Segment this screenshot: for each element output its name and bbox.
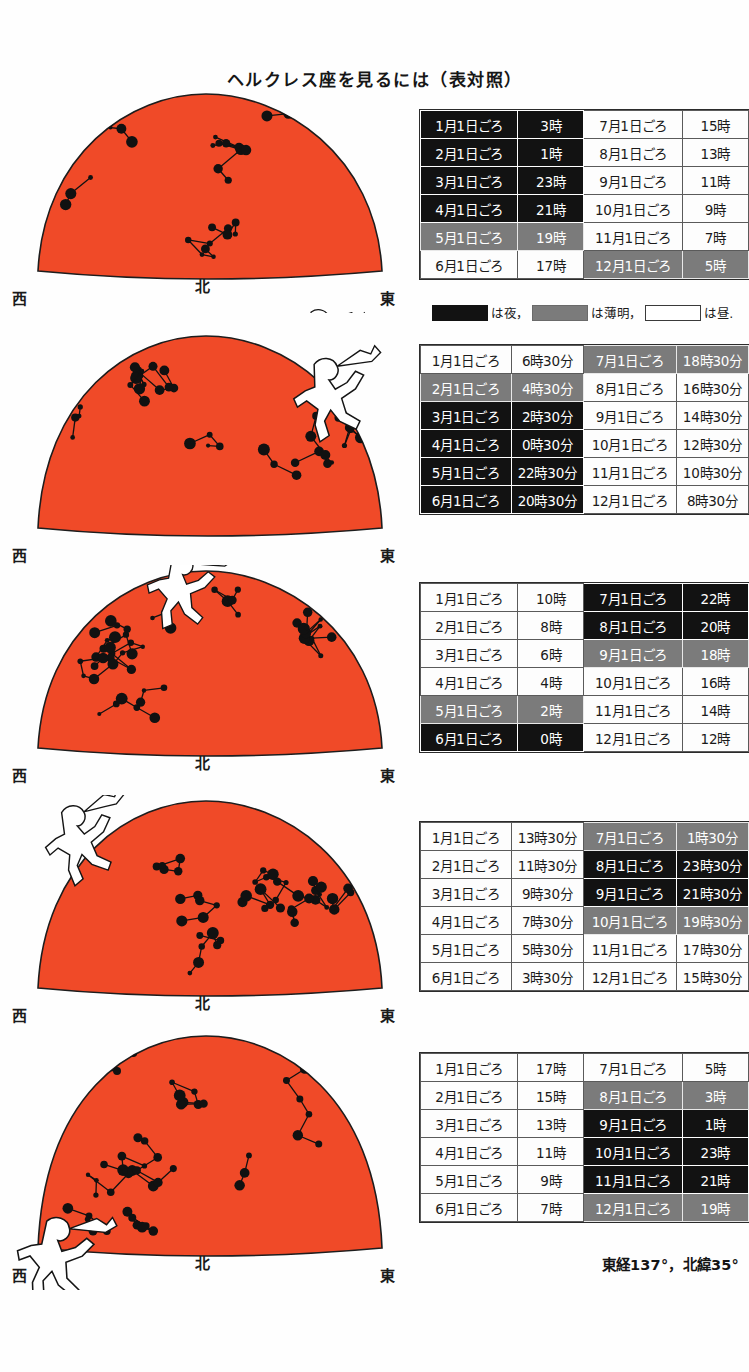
star-dot	[246, 1153, 252, 1159]
star-dot	[303, 608, 312, 617]
star-dot	[306, 1111, 313, 1118]
star-dot	[327, 893, 338, 904]
cell-left-date: 3月1日ごろ	[421, 167, 518, 195]
cell-left-date: 2月1日ごろ	[421, 374, 512, 402]
legend-day-label: は昼.	[704, 303, 733, 322]
star-dot	[288, 905, 295, 912]
star-dot	[270, 461, 277, 468]
direction-label-east: 東	[380, 1004, 395, 1025]
cell-right-time: 17時30分	[676, 935, 748, 963]
star-dot	[255, 883, 267, 895]
star-dot	[107, 659, 118, 670]
sky-panel-5: 西北東	[0, 1030, 412, 1290]
cell-right-date: 9月1日ごろ	[583, 879, 676, 907]
star-dot	[235, 612, 241, 618]
table-row: 3月1日ごろ23時9月1日ごろ11時	[421, 167, 749, 195]
star-dot	[225, 177, 232, 184]
cell-left-time: 19時	[518, 223, 584, 251]
star-dot	[324, 905, 329, 910]
star-dot	[149, 1226, 159, 1236]
star-dot	[98, 653, 108, 663]
legend-day-swatch	[645, 305, 701, 321]
cell-left-date: 6月1日ごろ	[421, 1194, 518, 1222]
star-dot	[136, 698, 145, 707]
direction-label-west: 西	[12, 764, 27, 785]
star-dot	[222, 139, 230, 147]
star-dot	[127, 665, 136, 674]
cell-right-time: 3時	[682, 1082, 748, 1110]
cell-right-time: 21時	[682, 1166, 748, 1194]
constellation-line	[97, 108, 120, 111]
star-dot	[118, 1152, 127, 1161]
cell-left-date: 5月1日ごろ	[421, 458, 512, 486]
direction-label-north: 北	[195, 752, 210, 773]
star-dot	[207, 927, 219, 939]
star-dot	[193, 957, 204, 968]
star-dot	[63, 1203, 74, 1214]
cell-right-time: 19時	[682, 1194, 748, 1222]
sky-panel-4: 西北東	[0, 795, 412, 1030]
star-dot	[292, 470, 302, 480]
cell-left-time: 2時	[518, 696, 584, 724]
star-dot	[199, 1100, 207, 1108]
star-dot	[97, 119, 106, 128]
star-chart-page: ヘルクレス座を見るには（表対照） 西北東 西東 西北東 西北東 西北東 1月1日…	[0, 0, 749, 1372]
star-dot	[187, 971, 192, 976]
star-dot	[77, 414, 82, 419]
star-dot	[94, 1178, 99, 1183]
star-dot	[213, 941, 221, 949]
star-dot	[290, 919, 299, 928]
star-dot	[139, 396, 150, 407]
star-dot	[128, 1214, 136, 1222]
star-dot	[331, 906, 336, 911]
cell-right-date: 10月1日ごろ	[584, 1138, 682, 1166]
direction-label-east: 東	[380, 764, 395, 785]
cell-right-time: 9時	[682, 195, 748, 223]
direction-label-east: 東	[380, 287, 395, 308]
cell-left-time: 17時	[518, 1054, 584, 1082]
star-dot	[223, 230, 233, 240]
cell-left-time: 7時	[518, 1194, 584, 1222]
table-row: 2月1日ごろ4時30分8月1日ごろ16時30分	[421, 374, 749, 402]
cell-left-time: 3時30分	[511, 963, 583, 991]
star-dot	[81, 674, 86, 679]
star-dot	[65, 188, 76, 199]
star-dot	[276, 903, 285, 912]
cell-right-date: 8月1日ごろ	[583, 374, 676, 402]
viewing-time-table-2: 1月1日ごろ6時30分7月1日ごろ18時30分2月1日ごろ4時30分8月1日ごろ…	[420, 345, 749, 514]
star-dot	[215, 140, 222, 147]
star-dot	[318, 653, 323, 658]
cell-left-time: 5時30分	[511, 935, 583, 963]
star-dot	[89, 627, 100, 638]
star-dot	[198, 943, 204, 949]
cell-right-time: 21時30分	[676, 879, 748, 907]
star-dot	[155, 385, 165, 395]
star-dot	[57, 113, 62, 118]
table-row: 2月1日ごろ8時8月1日ごろ20時	[421, 612, 749, 640]
star-dot	[175, 854, 185, 864]
star-dot	[100, 1161, 108, 1169]
cell-right-date: 12月1日ごろ	[584, 251, 682, 279]
cell-right-time: 12時30分	[676, 430, 748, 458]
cell-left-time: 21時	[518, 195, 584, 223]
sky-dome-shape	[38, 94, 382, 279]
cell-right-time: 5時	[682, 251, 748, 279]
star-dot	[117, 108, 124, 115]
cell-right-time: 1時	[682, 1110, 748, 1138]
cell-right-time: 16時30分	[676, 374, 748, 402]
table-row: 4月1日ごろ21時10月1日ごろ9時	[421, 195, 749, 223]
star-dot	[161, 685, 168, 692]
star-dot	[234, 1180, 245, 1191]
star-dot	[94, 105, 101, 112]
viewing-time-table-5: 1月1日ごろ17時7月1日ごろ5時2月1日ごろ15時8月1日ごろ3時3月1日ごろ…	[420, 1053, 749, 1222]
cell-right-date: 8月1日ごろ	[583, 851, 676, 879]
cell-left-time: 10時	[518, 584, 584, 612]
cell-right-time: 15時	[682, 111, 748, 139]
star-dot	[196, 932, 203, 939]
star-dot	[88, 175, 93, 180]
star-dot	[318, 617, 322, 621]
sky-panel-1: 西北東	[0, 88, 412, 313]
cell-left-date: 2月1日ごろ	[421, 1082, 518, 1110]
viewing-time-table-4: 1月1日ごろ13時30分7月1日ごろ1時30分2月1日ごろ11時30分8月1日ご…	[420, 822, 749, 991]
star-dot	[272, 897, 279, 904]
